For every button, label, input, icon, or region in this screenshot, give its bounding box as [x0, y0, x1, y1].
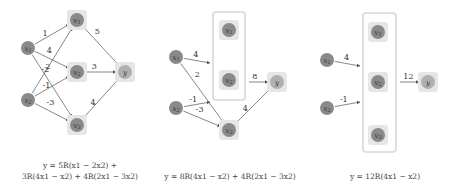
nodes: x1x2v1v2v3yx1x2v1v2v3yx1x2v1v2v3y — [21, 10, 438, 145]
edge-v3-y — [235, 88, 271, 124]
edge-weight: 5 — [95, 27, 100, 36]
node-x1: x1 — [320, 53, 334, 67]
caption-line: y = 12R(4x1 − x2) — [330, 171, 440, 182]
node-v2: v2 — [219, 70, 239, 90]
edge-x1-v2 — [35, 52, 69, 69]
node-y: y — [267, 72, 287, 92]
node-x2: x2 — [21, 93, 35, 107]
caption-line: y = 8R(4x1 − x2) + 4R(2x1 − 3x2) — [155, 171, 305, 182]
node-y: y — [418, 72, 438, 92]
node-v3: v3 — [368, 125, 388, 145]
edge-x2-v2 — [35, 76, 69, 96]
edge-weight: 4 — [91, 98, 96, 107]
edge-weight: -2 — [41, 65, 49, 74]
edge-weight: 4 — [344, 53, 349, 62]
node-y: y — [115, 62, 135, 82]
edge-v3-y — [82, 79, 119, 119]
edge-weight: 1 — [43, 29, 48, 38]
edge-x1-box — [335, 61, 360, 66]
caption-panel-3: y = 12R(4x1 − x2) — [330, 171, 440, 182]
edge-weight: -1 — [340, 95, 348, 104]
caption-panel-1: y = 5R(x1 − 2x2) + 3R(4x1 − x2) + 4R(2x1… — [10, 160, 150, 182]
node-x2: x2 — [169, 101, 183, 115]
edge-weight: 2 — [195, 70, 200, 79]
edge-x1-box — [184, 58, 210, 63]
edge-weight: 3 — [92, 62, 97, 71]
edge-weight: 4 — [47, 46, 52, 55]
node-v2: v2 — [368, 72, 388, 92]
edge-v1-y — [82, 26, 118, 66]
node-v1: v1 — [219, 20, 239, 40]
edge-weight: 12 — [403, 72, 413, 81]
node-x1: x1 — [21, 41, 35, 55]
caption-line: y = 5R(x1 − 2x2) + — [10, 160, 150, 171]
node-v1: v1 — [67, 10, 87, 30]
edge-weight: -3 — [196, 105, 204, 114]
node-v3: v3 — [219, 120, 239, 140]
edge-weight: -3 — [47, 98, 55, 107]
caption-panel-2: y = 8R(4x1 − x2) + 4R(2x1 − 3x2) — [155, 171, 305, 182]
edge-x2-v1 — [32, 28, 72, 94]
edge-weight: -1 — [189, 95, 197, 104]
node-v1: v1 — [368, 22, 388, 42]
edge-weight: 4 — [193, 50, 198, 59]
edge-weight: -1 — [43, 81, 51, 90]
node-x2: x2 — [320, 101, 334, 115]
caption-line: 3R(4x1 − x2) + 4R(2x1 − 3x2) — [10, 171, 150, 182]
edge-weight: 8 — [252, 72, 257, 81]
edge-weight: 4 — [243, 104, 248, 113]
node-x1: x1 — [169, 50, 183, 64]
node-v2: v2 — [67, 62, 87, 82]
node-v3: v3 — [67, 115, 87, 135]
